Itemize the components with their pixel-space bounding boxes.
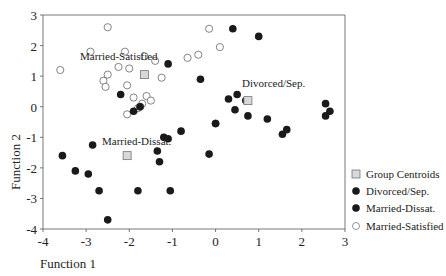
married-satisfied-point: [115, 63, 122, 70]
married-dissat-point: [130, 108, 138, 116]
married-dissat-point: [95, 187, 103, 195]
centroid-marker: [140, 71, 148, 79]
y-tick-label: 2: [31, 39, 38, 54]
divorced-point: [322, 100, 330, 108]
married-dissat-point: [136, 103, 144, 111]
x-tick-label: -2: [124, 234, 135, 249]
annotation-married-dissat: Married-Dissat.: [102, 135, 172, 147]
annotation-married-satisfied: Married-Satisfied: [80, 50, 158, 62]
legend-item-group-centroids: Group Centroids: [352, 168, 440, 180]
divorced-point: [279, 130, 287, 138]
legend: Group Centroids Divorced/Sep. Married-Di…: [352, 168, 444, 232]
centroid-square-icon: [352, 170, 360, 178]
married-satisfied-point: [104, 71, 111, 78]
y-tick-label: 3: [31, 8, 38, 23]
married-satisfied-point: [206, 25, 213, 32]
divorced-point: [255, 33, 263, 41]
married-satisfied-point: [184, 54, 191, 61]
divorced-point: [233, 91, 241, 99]
legend-label: Married-Satisfied: [366, 220, 444, 232]
x-tick-label: 3: [342, 234, 349, 249]
married-dissat-point: [166, 187, 174, 195]
married-satisfied-point: [216, 44, 223, 51]
annotation-divorced-sep: Divorced/Sep.: [242, 77, 305, 89]
plot-area: [43, 15, 345, 229]
x-tick-label: -4: [38, 234, 49, 249]
y-tick-label: -4: [26, 222, 37, 237]
filled-circle-icon: [352, 204, 360, 212]
divorced-point: [177, 127, 185, 135]
legend-label: Group Centroids: [366, 168, 440, 180]
divorced-point: [205, 150, 213, 158]
married-dissat-point: [134, 187, 142, 195]
y-axis-title: Function 2: [8, 134, 23, 190]
centroid-marker: [123, 152, 131, 160]
married-dissat-point: [117, 91, 125, 99]
y-tick-label: -1: [26, 130, 37, 145]
legend-item-married-satisfied: Married-Satisfied: [353, 220, 445, 232]
y-tick-label: -2: [26, 161, 37, 176]
x-tick-label: 2: [299, 234, 306, 249]
x-axis-title: Function 1: [40, 256, 96, 271]
filled-circle-icon: [352, 187, 360, 195]
married-satisfied-point: [130, 94, 137, 101]
married-dissat-point: [156, 158, 164, 166]
married-dissat-point: [85, 170, 93, 178]
married-satisfied-point: [158, 74, 165, 81]
x-tick-label: -3: [81, 234, 92, 249]
divorced-point: [322, 112, 330, 120]
divorced-point: [229, 25, 237, 33]
married-satisfied-point: [124, 111, 131, 118]
married-satisfied-point: [104, 24, 111, 31]
divorced-point: [231, 106, 239, 114]
x-axis-ticks: -4-3-2-10123: [38, 229, 349, 249]
married-dissat-point: [72, 167, 80, 175]
x-tick-label: -1: [167, 234, 178, 249]
married-satisfied-point: [147, 97, 154, 104]
divorced-point: [225, 95, 233, 103]
married-satisfied-point: [57, 66, 64, 73]
y-tick-label: 1: [31, 69, 38, 84]
centroid-marker: [244, 97, 252, 105]
divorced-point: [164, 60, 172, 68]
legend-item-married-dissat: Married-Dissat.: [352, 202, 435, 214]
y-tick-label: -3: [26, 191, 37, 206]
legend-label: Married-Dissat.: [366, 202, 436, 214]
legend-item-divorced-sep: Divorced/Sep.: [352, 185, 429, 197]
married-dissat-point: [154, 147, 162, 155]
married-satisfied-point: [124, 82, 131, 89]
y-axis-ticks: -4-3-2-10123: [26, 8, 43, 237]
married-dissat-point: [89, 141, 97, 149]
y-tick-label: 0: [31, 100, 38, 115]
divorced-point: [212, 120, 220, 128]
divorced-point: [197, 75, 205, 83]
divorced-point: [264, 115, 272, 123]
x-tick-label: 0: [212, 234, 219, 249]
x-tick-label: 1: [255, 234, 262, 249]
legend-label: Divorced/Sep.: [366, 185, 429, 197]
married-satisfied-point: [126, 65, 133, 72]
married-dissat-point: [59, 152, 67, 160]
married-satisfied-point: [195, 51, 202, 58]
married-satisfied-point: [102, 83, 109, 90]
divorced-point: [244, 112, 252, 120]
open-circle-icon: [353, 223, 360, 230]
married-dissat-point: [104, 216, 112, 224]
scatter-chart: -4-3-2-10123 -4-3-2-10123 Function 1 Fun…: [0, 0, 446, 276]
